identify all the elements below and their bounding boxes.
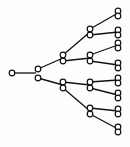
tree-edge <box>90 32 118 35</box>
binary-tree-diagram <box>0 0 130 147</box>
tree-edge <box>63 88 90 111</box>
tree-node-L3a <box>87 26 93 32</box>
tree-node-L4b <box>115 13 121 19</box>
tree-node-L3h <box>87 111 93 117</box>
tree-edge <box>63 32 90 55</box>
tree-edge <box>90 114 118 129</box>
tree-edge <box>90 80 118 82</box>
tree-node-L4n <box>115 111 121 117</box>
tree-edge <box>90 13 118 29</box>
tree-node-L2d <box>60 85 66 91</box>
tree-edge <box>63 82 90 85</box>
tree-node-L4h <box>115 65 121 71</box>
tree-edge <box>38 78 63 85</box>
tree-node-L2a <box>60 52 66 58</box>
tree-node-L4d <box>115 32 121 38</box>
tree-node-L4f <box>115 45 121 51</box>
tree-edge <box>90 88 118 95</box>
tree-node-L3c <box>87 52 93 58</box>
tree-node-L3g <box>87 105 93 111</box>
tree-edges <box>12 13 118 129</box>
tree-edge <box>90 45 118 55</box>
tree-edge <box>38 58 63 69</box>
tree-node-L3b <box>87 32 93 38</box>
tree-node-L2b <box>60 58 66 64</box>
tree-node-L3e <box>87 79 93 85</box>
tree-node-L4p <box>115 129 121 135</box>
tree-nodes <box>9 8 121 135</box>
tree-node-root <box>9 70 15 76</box>
tree-edge <box>63 58 90 61</box>
tree-node-L3f <box>87 85 93 91</box>
tree-node-L4l <box>115 95 121 101</box>
tree-edge <box>90 61 118 65</box>
tree-node-L1a <box>35 66 41 72</box>
tree-node-L3d <box>87 58 93 64</box>
tree-node-L2c <box>60 79 66 85</box>
tree-edge <box>90 108 118 111</box>
tree-graphic <box>0 0 130 147</box>
tree-node-L4j <box>115 80 121 86</box>
tree-node-L1b <box>35 75 41 81</box>
